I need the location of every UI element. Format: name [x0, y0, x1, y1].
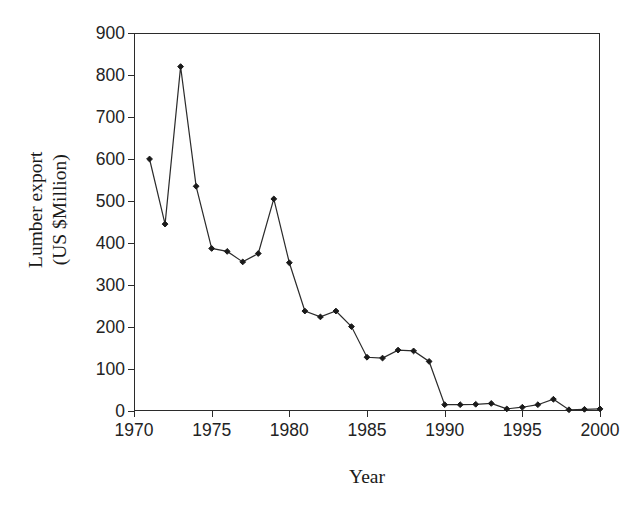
data-point-marker [209, 246, 215, 252]
x-tick-mark [134, 411, 135, 417]
y-tick-label: 200 [96, 317, 125, 338]
y-tick-label: 600 [96, 149, 125, 170]
data-point-marker [395, 347, 401, 353]
data-point-marker [193, 183, 199, 189]
data-point-marker [255, 251, 261, 257]
data-point-marker [364, 354, 370, 360]
y-tick-label: 900 [96, 23, 125, 44]
plot-area: 0100200300400500600700800900 19701975198… [134, 33, 600, 411]
x-tick-label: 1995 [503, 420, 542, 441]
data-point-marker [302, 308, 308, 314]
x-tick-mark [289, 411, 290, 417]
data-point-marker [597, 406, 603, 412]
data-point-marker [178, 64, 184, 70]
data-series-lumber-export [134, 33, 600, 411]
x-tick-label: 1970 [115, 420, 154, 441]
x-axis-title: Year [134, 466, 600, 488]
y-tick-label: 100 [96, 359, 125, 380]
data-point-marker [535, 402, 541, 408]
chart-figure: Lumber export (US $Million) 010020030040… [0, 0, 642, 511]
y-tick-label: 400 [96, 233, 125, 254]
x-tick-mark [367, 411, 368, 417]
y-axis-title-line-2: (US $Million) [48, 152, 72, 268]
data-point-marker [519, 404, 525, 410]
x-tick-mark [445, 411, 446, 417]
x-tick-mark [522, 411, 523, 417]
data-point-marker [380, 355, 386, 361]
x-tick-label: 1985 [348, 420, 387, 441]
data-point-marker [162, 221, 168, 227]
y-axis-title-line-1: Lumber export [24, 152, 48, 268]
y-tick-label: 0 [115, 401, 125, 422]
data-point-marker [147, 156, 153, 162]
data-point-marker [442, 402, 448, 408]
data-point-marker [488, 401, 494, 407]
series-line [150, 67, 600, 410]
y-axis-title: Lumber export (US $Million) [0, 0, 96, 420]
data-point-marker [286, 260, 292, 266]
x-tick-mark [212, 411, 213, 417]
x-tick-label: 2000 [581, 420, 620, 441]
y-tick-label: 700 [96, 107, 125, 128]
x-tick-label: 1990 [425, 420, 464, 441]
x-tick-label: 1975 [192, 420, 231, 441]
data-point-marker [582, 406, 588, 412]
y-tick-label: 300 [96, 275, 125, 296]
data-point-marker [318, 314, 324, 320]
y-tick-label: 800 [96, 65, 125, 86]
data-point-marker [504, 406, 510, 412]
data-point-marker [271, 196, 277, 202]
y-axis-title-text: Lumber export (US $Million) [24, 152, 72, 268]
data-point-marker [473, 401, 479, 407]
x-tick-label: 1980 [270, 420, 309, 441]
data-point-marker [457, 402, 463, 408]
y-tick-label: 500 [96, 191, 125, 212]
